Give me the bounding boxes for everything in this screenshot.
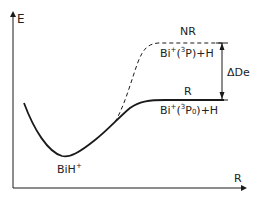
r-asymptote-label: Bi+(3P0)+H bbox=[160, 105, 218, 116]
nr-curve-label: NR bbox=[180, 26, 196, 37]
y-axis-label: E bbox=[17, 13, 25, 25]
r-curve-label: R bbox=[184, 86, 192, 97]
nr-asymptote-label: Bi+(3P)+H bbox=[160, 48, 214, 59]
x-axis-label: R bbox=[234, 173, 242, 184]
potential-energy-diagram bbox=[0, 0, 253, 198]
gap-label: ΔDe bbox=[227, 67, 250, 78]
minimum-label: BiH+ bbox=[57, 164, 82, 175]
